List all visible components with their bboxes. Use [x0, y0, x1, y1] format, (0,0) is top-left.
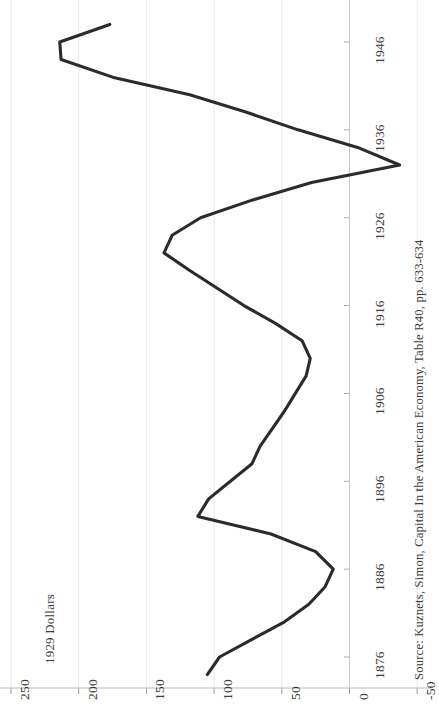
- value-tick-label: 0: [356, 693, 372, 700]
- data-series-line: [60, 24, 400, 674]
- year-tick-label: 1936: [372, 124, 388, 152]
- value-tick-label: -50: [423, 681, 439, 700]
- value-tick-label: 100: [220, 679, 236, 700]
- value-tick-label: 50: [288, 686, 304, 700]
- source-note: Source: Kuznets, Simon, Capital In the A…: [412, 239, 427, 680]
- year-tick-label: 1886: [372, 563, 388, 591]
- year-tick-label: 1876: [372, 651, 388, 679]
- year-tick-label: 1896: [372, 475, 388, 503]
- value-tick-label: 150: [152, 679, 168, 700]
- year-tick-label: 1946: [372, 36, 388, 64]
- value-tick-label: 200: [85, 679, 101, 700]
- value-tick-label: 250: [17, 679, 33, 700]
- gridlines-group: [11, 0, 417, 694]
- year-tick-label: 1916: [372, 300, 388, 328]
- value-axis-title: 1929 Dollars: [42, 594, 58, 664]
- year-tick-label: 1906: [372, 388, 388, 416]
- year-tick-label: 1926: [372, 212, 388, 240]
